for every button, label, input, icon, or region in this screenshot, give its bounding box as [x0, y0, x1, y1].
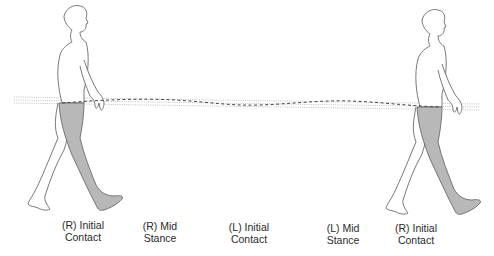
right-shaded-leg	[417, 107, 481, 214]
phase-label-l-initial-contact: (L) Initial Contact	[214, 221, 284, 245]
left-torso-outline	[58, 5, 88, 103]
right-walker-figure	[386, 9, 481, 214]
phase-label-r-mid-stance: (R) Mid Stance	[130, 220, 190, 244]
left-shaded-leg	[59, 103, 123, 210]
phase-label-l-mid-stance: (L) Mid Stance	[313, 222, 373, 246]
center-of-mass-path	[62, 99, 440, 107]
phase-label-r-initial-contact-1: (R) Initial Contact	[48, 219, 118, 243]
phase-label-r-initial-contact-2: (R) Initial Contact	[381, 222, 451, 246]
right-torso-outline	[416, 9, 446, 107]
gait-diagram	[0, 0, 494, 256]
left-walker-figure	[28, 5, 123, 210]
